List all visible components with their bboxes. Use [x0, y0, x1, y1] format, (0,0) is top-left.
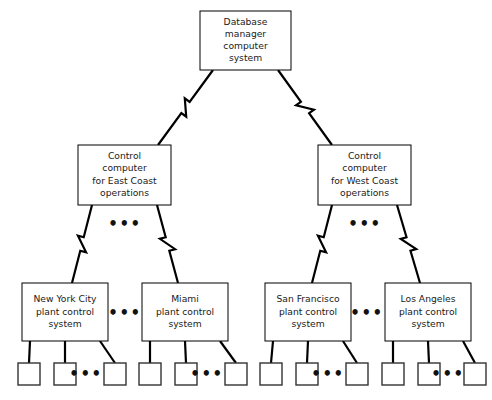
- plant-control-new-york-city-node[interactable]: New York Cityplant controlsystem: [22, 283, 108, 341]
- database-manager-node[interactable]: Databasemanagercomputersystem: [200, 11, 291, 70]
- diagram-canvas: DatabasemanagercomputersystemControlcomp…: [0, 0, 492, 400]
- leaf-group-los-angeles-square-0[interactable]: [382, 363, 404, 385]
- plant-control-san-francisco-node-label-line-0: San Francisco: [276, 293, 339, 304]
- leaf-group-new-york-city-ellipsis: •••: [69, 365, 102, 383]
- database-manager-node-label-line-2: computer: [223, 40, 268, 51]
- leaf-group-san-francisco-square-0[interactable]: [260, 363, 282, 385]
- control-computer-west-coast-node-label-line-0: Control: [348, 150, 381, 161]
- leaf-group-miami-square-2[interactable]: [225, 363, 247, 385]
- link-east-coast-to-miami: [157, 205, 178, 283]
- leaf-group-miami-link-2: [220, 341, 236, 363]
- leaf-group-san-francisco-link-0: [271, 341, 273, 363]
- plant-control-miami-node-label-line-1: plant control: [156, 306, 214, 317]
- leaf-group-los-angeles-ellipsis: •••: [431, 365, 464, 383]
- leaf-group-los-angeles-link-2: [463, 341, 475, 363]
- plant-control-new-york-city-node-label-line-0: New York City: [34, 293, 98, 304]
- node-box-layer: DatabasemanagercomputersystemControlcomp…: [22, 11, 471, 341]
- control-computer-east-coast-node-label-line-2: for East Coast: [92, 175, 157, 186]
- leaf-group-miami-square-0[interactable]: [139, 363, 161, 385]
- ellipsis-west-coast-children: •••: [348, 215, 381, 233]
- ellipsis-between-nyc-miami: •••: [108, 304, 141, 322]
- link-east-coast-to-nyc: [72, 205, 92, 283]
- leaf-group-miami-link-1: [185, 341, 186, 363]
- plant-control-los-angeles-node-label-line-2: system: [411, 318, 444, 329]
- plant-control-san-francisco-node[interactable]: San Franciscoplant controlsystem: [265, 283, 351, 341]
- leaf-group-san-francisco-square-2[interactable]: [346, 363, 368, 385]
- link-west-coast-to-sf: [312, 205, 332, 283]
- database-manager-node-label-line-3: system: [229, 52, 262, 63]
- leaf-group-miami-ellipsis: •••: [190, 365, 223, 383]
- plant-control-los-angeles-node-label-line-0: Los Angeles: [401, 293, 456, 304]
- ellipsis-between-sf-la: •••: [350, 304, 383, 322]
- plant-control-miami-node[interactable]: Miamiplant controlsystem: [142, 283, 228, 341]
- control-computer-east-coast-node-label-line-3: operations: [100, 187, 149, 198]
- leaf-link-layer: [29, 341, 475, 363]
- control-computer-east-coast-node-label-line-0: Control: [108, 150, 141, 161]
- control-computer-east-coast-node-label-line-1: computer: [102, 162, 147, 173]
- database-manager-node-label-line-1: manager: [225, 28, 267, 39]
- link-db-to-west-coast: [278, 70, 332, 145]
- leaf-group-los-angeles-square-2[interactable]: [464, 363, 486, 385]
- plant-control-new-york-city-node-label-line-1: plant control: [36, 306, 94, 317]
- plant-control-san-francisco-node-label-line-2: system: [291, 318, 324, 329]
- network-diagram: DatabasemanagercomputersystemControlcomp…: [0, 0, 492, 400]
- leaf-group-san-francisco-ellipsis: •••: [311, 365, 344, 383]
- control-computer-west-coast-node-label-line-1: computer: [342, 162, 387, 173]
- control-computer-east-coast-node[interactable]: Controlcomputerfor East Coastoperations: [78, 145, 171, 205]
- plant-control-new-york-city-node-label-line-2: system: [48, 318, 81, 329]
- leaf-group-los-angeles-link-1: [428, 341, 429, 363]
- control-computer-west-coast-node-label-line-3: operations: [340, 187, 389, 198]
- leaf-group-new-york-city-square-2[interactable]: [104, 363, 126, 385]
- control-computer-west-coast-node-label-line-2: for West Coast: [331, 175, 399, 186]
- leaf-group-new-york-city-link-0: [29, 341, 30, 363]
- ellipsis-east-coast-children: •••: [108, 215, 141, 233]
- database-manager-node-label-line-0: Database: [224, 16, 268, 27]
- plant-control-san-francisco-node-label-line-1: plant control: [279, 306, 337, 317]
- plant-control-los-angeles-node[interactable]: Los Angelesplant controlsystem: [385, 283, 471, 341]
- plant-control-miami-node-label-line-0: Miami: [171, 293, 199, 304]
- leaf-group-new-york-city-square-0[interactable]: [18, 363, 40, 385]
- leaf-group-san-francisco-link-1: [307, 341, 308, 363]
- leaf-group-san-francisco-link-2: [343, 341, 357, 363]
- plant-control-miami-node-label-line-2: system: [168, 318, 201, 329]
- link-west-coast-to-la: [397, 205, 420, 283]
- plant-control-los-angeles-node-label-line-1: plant control: [399, 306, 457, 317]
- link-db-to-east-coast: [158, 70, 213, 145]
- control-computer-west-coast-node[interactable]: Controlcomputerfor West Coastoperations: [318, 145, 411, 205]
- leaf-group-new-york-city-link-2: [100, 341, 115, 363]
